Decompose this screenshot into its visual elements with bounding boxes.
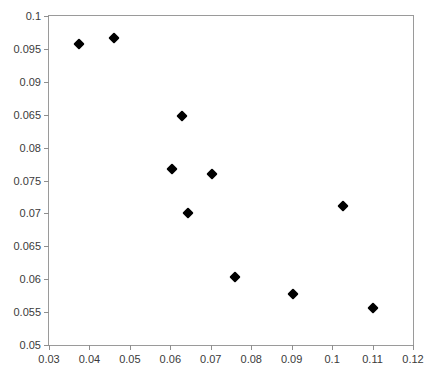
data-point: [338, 200, 349, 211]
y-axis-tick-label: 0.08: [20, 142, 41, 154]
x-axis-tick: [373, 345, 374, 350]
x-axis-tick-label: 0.05: [119, 353, 140, 365]
y-axis-tick: [44, 115, 49, 116]
y-axis-tick: [44, 82, 49, 83]
y-axis-tick: [44, 312, 49, 313]
x-axis-tick: [413, 345, 414, 350]
data-point: [177, 110, 188, 121]
y-axis-tick-label: 0.095: [13, 43, 41, 55]
x-axis-tick: [170, 345, 171, 350]
data-point: [74, 38, 85, 49]
y-axis-tick-label: 0.05: [20, 339, 41, 351]
x-axis-tick: [332, 345, 333, 350]
data-point: [167, 163, 178, 174]
x-axis-tick-label: 0.12: [402, 353, 423, 365]
y-axis-tick: [44, 181, 49, 182]
x-axis-tick-label: 0.04: [79, 353, 100, 365]
y-axis-tick-label: 0.1: [26, 10, 41, 22]
y-axis-tick-label: 0.065: [13, 109, 41, 121]
y-axis-tick-label: 0.07: [20, 207, 41, 219]
x-axis-tick-label: 0.09: [281, 353, 302, 365]
y-axis-tick-label: 0.06: [20, 273, 41, 285]
x-axis-tick: [89, 345, 90, 350]
y-axis-tick-label: 0.075: [13, 175, 41, 187]
x-axis-tick: [49, 345, 50, 350]
x-axis-tick: [130, 345, 131, 350]
x-axis-tick: [292, 345, 293, 350]
x-axis-tick-label: 0.11: [362, 353, 383, 365]
data-point: [108, 32, 119, 43]
x-axis-tick-label: 0.08: [241, 353, 262, 365]
data-point: [182, 207, 193, 218]
data-point: [288, 289, 299, 300]
y-axis-tick: [44, 279, 49, 280]
x-axis-tick-label: 0.03: [38, 353, 59, 365]
data-point: [367, 302, 378, 313]
y-axis-tick: [44, 16, 49, 17]
y-axis-tick: [44, 49, 49, 50]
y-axis-tick-label: 0.09: [20, 76, 41, 88]
x-axis-tick: [211, 345, 212, 350]
x-axis-tick: [251, 345, 252, 350]
plot-area: 0.10.0950.090.0650.080.0750.070.0650.060…: [48, 15, 414, 346]
y-axis-tick: [44, 246, 49, 247]
y-axis-tick-label: 0.055: [13, 306, 41, 318]
x-axis-tick-label: 0.1: [324, 353, 339, 365]
x-axis-tick-label: 0.06: [160, 353, 181, 365]
data-point: [229, 272, 240, 283]
scatter-chart: 0.10.0950.090.0650.080.0750.070.0650.060…: [0, 0, 441, 385]
x-axis-tick-label: 0.07: [200, 353, 221, 365]
data-point: [206, 168, 217, 179]
y-axis-tick: [44, 148, 49, 149]
y-axis-tick: [44, 213, 49, 214]
y-axis-tick-label: 0.065: [13, 240, 41, 252]
